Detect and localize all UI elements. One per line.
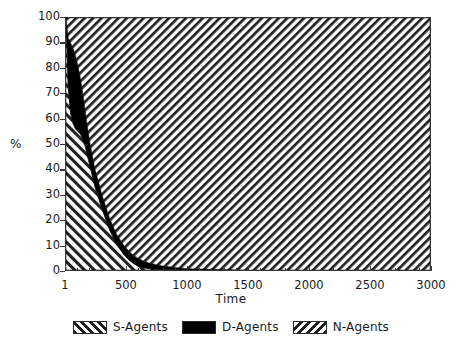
x-minor-tick (175, 268, 176, 271)
y-tick-label: 70 (30, 87, 60, 99)
x-minor-tick (260, 268, 261, 271)
x-minor-tick (346, 268, 347, 271)
x-tick-mark (65, 266, 66, 271)
x-tick-label: 2500 (355, 280, 384, 292)
chart-legend: S-Agents D-Agents N-Agents (0, 320, 462, 334)
y-tick-label: 20 (30, 214, 60, 226)
legend-item-n-agents: N-Agents (293, 320, 389, 334)
y-tick-label: 100 (30, 11, 60, 23)
x-minor-tick (199, 268, 200, 271)
x-tick-label: 500 (115, 280, 137, 292)
x-minor-tick (187, 268, 188, 271)
x-minor-tick (150, 268, 151, 271)
x-minor-tick (370, 268, 371, 271)
x-minor-tick (138, 268, 139, 271)
y-tick-label: 90 (30, 36, 60, 48)
legend-item-s-agents: S-Agents (73, 320, 168, 334)
x-minor-tick (224, 268, 225, 271)
x-minor-tick (77, 268, 78, 271)
x-minor-tick (395, 268, 396, 271)
legend-swatch-n-agents (293, 321, 327, 334)
x-minor-tick (309, 268, 310, 271)
x-minor-tick (89, 268, 90, 271)
x-minor-tick (358, 268, 359, 271)
x-minor-tick (333, 268, 334, 271)
x-minor-tick (163, 268, 164, 271)
x-minor-tick (419, 268, 420, 271)
x-tick-label: 3000 (416, 280, 445, 292)
legend-label-n-agents: N-Agents (333, 320, 389, 334)
y-tick-label: 0 (30, 265, 60, 277)
area-n-agents (66, 18, 430, 270)
x-minor-tick (126, 268, 127, 271)
legend-swatch-s-agents (73, 321, 107, 334)
x-axis-title: Time (0, 292, 462, 306)
legend-label-d-agents: D-Agents (222, 320, 279, 334)
x-minor-tick (248, 268, 249, 271)
x-minor-tick (297, 268, 298, 271)
x-minor-tick (236, 268, 237, 271)
x-minor-tick (407, 268, 408, 271)
legend-item-d-agents: D-Agents (182, 320, 279, 334)
stacked-area-svg (66, 18, 430, 270)
y-axis-title: % (10, 137, 21, 151)
x-minor-tick (382, 268, 383, 271)
y-tick-label: 30 (30, 189, 60, 201)
x-minor-tick (211, 268, 212, 271)
x-tick-label: 2000 (294, 280, 323, 292)
x-minor-tick (102, 268, 103, 271)
x-tick-mark (431, 266, 432, 271)
x-minor-tick (285, 268, 286, 271)
legend-swatch-d-agents (182, 321, 216, 334)
x-minor-tick (114, 268, 115, 271)
x-tick-label: 1 (61, 280, 68, 292)
y-tick-label: 10 (30, 240, 60, 252)
y-tick-label: 50 (30, 138, 60, 150)
legend-label-s-agents: S-Agents (113, 320, 168, 334)
y-axis: 0102030405060708090100 (27, 17, 60, 271)
x-minor-tick (272, 268, 273, 271)
y-tick-label: 80 (30, 62, 60, 74)
plot-area (65, 17, 431, 271)
x-tick-label: 1500 (233, 280, 262, 292)
chart-figure: 0102030405060708090100 % (0, 0, 462, 358)
x-minor-tick (321, 268, 322, 271)
y-tick-label: 60 (30, 113, 60, 125)
y-tick-label: 40 (30, 163, 60, 175)
x-tick-label: 1000 (172, 280, 201, 292)
